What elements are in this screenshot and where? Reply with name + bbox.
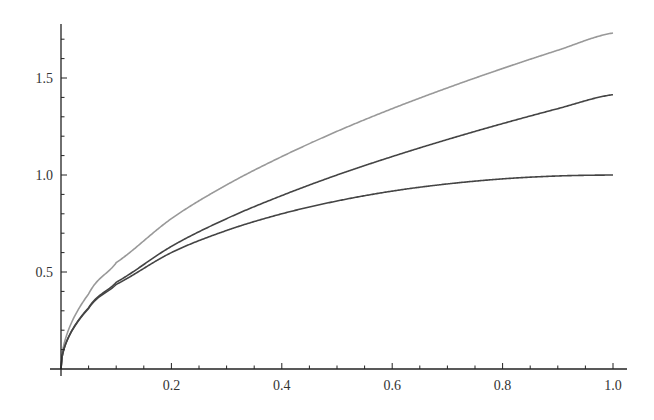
- y-tick-label: 1.5: [36, 71, 54, 86]
- line-chart: 0.20.40.60.81.00.51.01.5: [0, 0, 654, 420]
- x-tick-label: 0.6: [383, 378, 401, 393]
- y-tick-label: 1.0: [36, 168, 54, 183]
- curves: [61, 33, 613, 369]
- x-tick-label: 1.0: [604, 378, 622, 393]
- x-tick-label: 0.8: [494, 378, 512, 393]
- y-tick-label: 0.5: [36, 265, 54, 280]
- series-line-1: [61, 95, 613, 369]
- axes: 0.20.40.60.81.00.51.01.5: [36, 24, 628, 393]
- x-tick-label: 0.2: [163, 378, 181, 393]
- x-tick-label: 0.4: [273, 378, 291, 393]
- series-line-2: [61, 175, 613, 369]
